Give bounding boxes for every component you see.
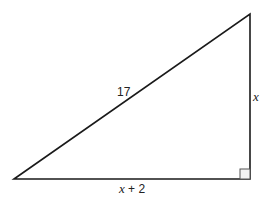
hypotenuse-label: 17 [117, 85, 131, 99]
right-angle-marker [240, 169, 250, 179]
diagram-canvas: 17 x x + 2 [0, 0, 268, 199]
triangle-figure: 17 x x + 2 [0, 0, 268, 199]
triangle [14, 14, 250, 179]
horizontal-leg-offset: + 2 [125, 182, 146, 196]
vertical-leg-label: x [252, 89, 259, 104]
horizontal-leg-label: x + 2 [118, 181, 145, 196]
